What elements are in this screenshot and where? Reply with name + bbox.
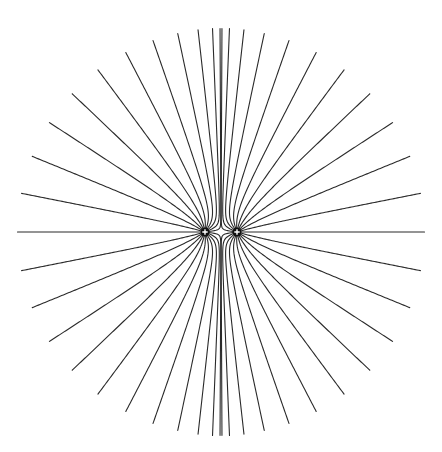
field-line <box>223 29 236 232</box>
field-line <box>238 193 420 231</box>
field-line <box>238 233 370 370</box>
field-line <box>98 233 205 394</box>
field-line <box>206 233 219 436</box>
field-line <box>72 233 204 370</box>
field-diagram: Electric field lines of two equal positi… <box>0 0 442 452</box>
field-line <box>206 29 219 232</box>
field-line <box>238 94 370 231</box>
field-line <box>223 233 236 436</box>
positive-charge-right <box>233 228 242 237</box>
positive-charge-left <box>201 228 210 237</box>
charges <box>201 228 242 237</box>
field-line <box>238 232 420 270</box>
field-line <box>237 70 344 231</box>
field-line <box>22 193 204 231</box>
field-line-canvas <box>0 0 442 452</box>
field-lines <box>18 29 425 436</box>
field-line <box>237 233 344 394</box>
field-line <box>72 94 204 231</box>
field-line <box>98 70 205 231</box>
field-line <box>22 232 204 270</box>
